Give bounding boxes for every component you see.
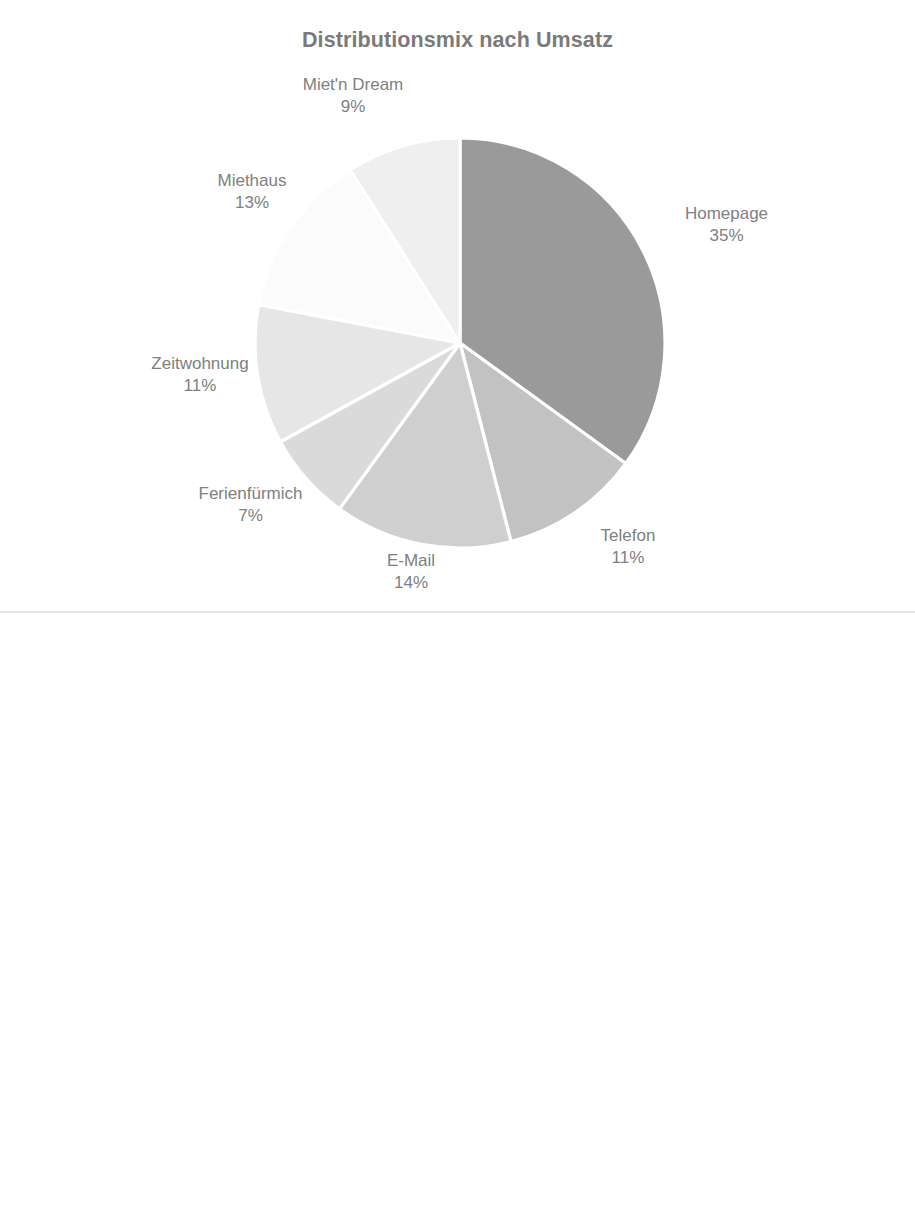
slice-label-zeitwohnung-umsatz: Zeitwohnung 11% (100, 353, 300, 398)
slice-label-value: 14% (331, 572, 491, 594)
slice-label-homepage-umsatz: Homepage 35% (629, 203, 824, 248)
slice-label-name: Zeitwohnung (100, 353, 300, 375)
slice-label-telefon-umsatz: Telefon 11% (548, 525, 708, 570)
slice-label-email-umsatz: E-Mail 14% (331, 550, 491, 595)
slice-label-value: 35% (629, 225, 824, 247)
slice-label-name: E-Mail (331, 550, 491, 572)
slice-label-value: 9% (243, 96, 463, 118)
slice-label-value: 11% (548, 547, 708, 569)
slice-label-value: 7% (143, 505, 358, 527)
slice-label-miethaus-umsatz: Miethaus 13% (152, 170, 352, 215)
slice-label-name: Miet'n Dream (243, 74, 463, 96)
slice-label-ferienfuermich-umsatz: Ferienfürmich 7% (143, 483, 358, 528)
slice-label-value: 13% (152, 192, 352, 214)
panel-divider (0, 611, 915, 612)
slice-label-name: Telefon (548, 525, 708, 547)
chart-panel-belegungstagen: Distributionsmix nach Belegungstagen Mie… (0, 613, 915, 1229)
chart-title-umsatz: Distributionsmix nach Umsatz (0, 28, 915, 53)
chart-panel-umsatz: Distributionsmix nach Umsatz Miet'n Drea… (0, 0, 915, 613)
document-page: Distributionsmix nach Umsatz Miet'n Drea… (0, 0, 915, 1229)
slice-label-value: 11% (100, 375, 300, 397)
slice-label-name: Ferienfürmich (143, 483, 358, 505)
slice-label-name: Homepage (629, 203, 824, 225)
slice-label-name: Miethaus (152, 170, 352, 192)
slice-label-mietndream-umsatz: Miet'n Dream 9% (243, 74, 463, 119)
